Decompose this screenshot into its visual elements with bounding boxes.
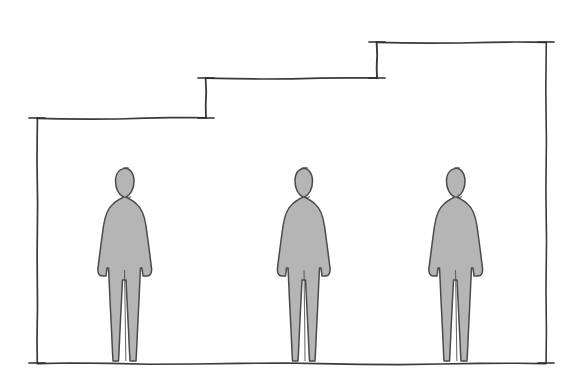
human-figure-right <box>429 168 483 361</box>
riser-1-line <box>206 78 207 118</box>
riser-left-line <box>37 118 38 363</box>
stepped-height-diagram <box>0 0 583 389</box>
human-figure-left <box>98 168 152 361</box>
step-low-line <box>37 118 206 120</box>
step-high-line <box>377 42 546 43</box>
figure-leg-split <box>304 270 305 361</box>
ground-line <box>37 363 546 365</box>
diagram-canvas <box>0 0 583 389</box>
step-mid-line <box>206 78 377 79</box>
riser-right-line <box>546 42 547 363</box>
human-figure-center <box>277 168 330 361</box>
riser-2-line <box>377 42 378 78</box>
